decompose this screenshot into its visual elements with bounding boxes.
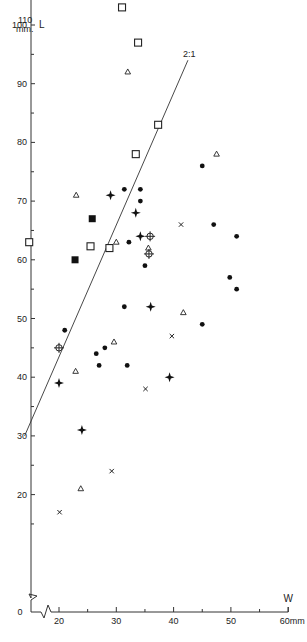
y-tick-label: 60 <box>17 255 27 265</box>
star-marker <box>135 231 145 241</box>
star-marker <box>165 372 175 382</box>
square-open-marker <box>155 121 162 128</box>
x-marker <box>143 387 147 391</box>
circle-filled-marker <box>234 287 239 292</box>
triangle-open-marker <box>125 69 131 74</box>
square-open-marker <box>132 151 139 158</box>
y-tick-label: 70 <box>17 196 27 206</box>
star-marker <box>77 425 87 435</box>
circle-filled-marker <box>138 199 143 204</box>
circle-filled-marker <box>122 304 127 309</box>
origin-label: 0 <box>17 607 22 617</box>
square-filled-marker <box>72 256 79 263</box>
circle-filled-marker <box>211 222 216 227</box>
triangle-open-marker <box>73 368 79 373</box>
x-marker <box>170 334 174 338</box>
circle-filled-marker <box>138 187 143 192</box>
triangle-open-marker <box>73 192 79 197</box>
circle-filled-marker <box>227 275 232 280</box>
circle-filled-marker <box>94 351 99 356</box>
data-points <box>26 0 239 514</box>
x-tick-label: 50 <box>226 616 236 626</box>
circle-filled-marker <box>102 345 107 350</box>
circle-filled-marker <box>122 187 127 192</box>
circle-filled-marker <box>200 163 205 168</box>
y-axis-line <box>29 0 37 612</box>
square-open-marker <box>119 4 126 11</box>
y-tick-label: 90 <box>17 79 27 89</box>
y-tick-label: 40 <box>17 372 27 382</box>
x-marker <box>110 469 114 473</box>
triangle-open-marker <box>214 151 220 156</box>
axis-labels: 110mm.LW0 <box>16 15 293 617</box>
scatter-chart: 20304050607080901002030405060mm 2:1 110m… <box>0 0 307 642</box>
x-tick-label: 40 <box>169 616 179 626</box>
star-marker <box>131 208 141 218</box>
square-open-marker <box>135 39 142 46</box>
y-tick-label: 20 <box>17 490 27 500</box>
triangle-open-marker <box>114 239 120 244</box>
square-open-marker <box>87 243 94 250</box>
circle-filled-marker <box>234 234 239 239</box>
y-axis-title: L <box>39 19 45 30</box>
triangle-open-marker <box>78 486 84 491</box>
circle-filled-marker <box>62 328 67 333</box>
triangle-open-marker <box>181 310 187 315</box>
star-marker <box>106 190 116 200</box>
star-marker <box>54 378 64 388</box>
square-open-marker <box>26 239 33 246</box>
square-filled-marker <box>89 215 96 222</box>
triangle-open-marker <box>111 339 117 344</box>
x-tick-label: 20 <box>54 616 64 626</box>
ratio-label: 2:1 <box>183 49 196 59</box>
y-tick-label: 30 <box>17 431 27 441</box>
circle-cross-marker <box>54 343 64 353</box>
triangle-open-marker <box>146 245 152 250</box>
star-marker <box>146 302 156 312</box>
y-tick-label: 80 <box>17 137 27 147</box>
y-axis-unit-label: mm. <box>16 24 34 34</box>
circle-filled-marker <box>127 240 132 245</box>
x-marker <box>179 222 183 226</box>
circle-filled-marker <box>97 363 102 368</box>
x-axis-title: W <box>283 593 293 604</box>
circle-filled-marker <box>200 322 205 327</box>
circle-cross-marker <box>145 231 155 241</box>
square-open-marker <box>106 245 113 252</box>
x-tick-label: 30 <box>111 616 121 626</box>
axes: 20304050607080901002030405060mm <box>12 0 305 626</box>
circle-filled-marker <box>143 263 148 268</box>
y-tick-label: 50 <box>17 314 27 324</box>
x-axis-line <box>31 605 288 618</box>
x-tick-label: 60mm <box>280 616 305 626</box>
circle-filled-marker <box>125 363 130 368</box>
x-marker <box>57 510 61 514</box>
